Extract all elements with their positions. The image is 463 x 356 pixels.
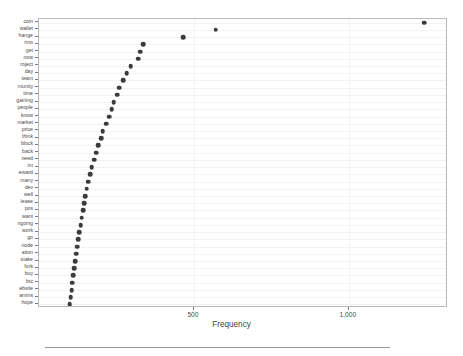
y-axis-tick-label: want: [22, 214, 33, 219]
gridline-horizontal: [39, 117, 446, 118]
x-axis-tick-label: 500: [187, 311, 198, 318]
gridline-vertical: [194, 19, 195, 306]
x-axis-tick-label: 1,000: [340, 311, 357, 318]
y-axis-tick-label: work: [22, 229, 33, 234]
gridline-horizontal: [39, 239, 446, 240]
y-axis-tick-label: im: [28, 164, 33, 169]
gridline-horizontal: [39, 261, 446, 262]
data-point: [74, 252, 79, 257]
data-point: [68, 295, 73, 300]
data-point: [72, 266, 77, 271]
y-axis-tick-label: stake: [21, 257, 33, 262]
gridline-horizontal: [39, 23, 446, 24]
y-axis-tick-label: pos: [25, 207, 33, 212]
gridline-horizontal: [39, 283, 446, 284]
data-point: [81, 208, 86, 213]
data-point: [70, 280, 75, 285]
plot-panel: [38, 18, 447, 307]
y-axis-tick-label: ngoing: [17, 221, 33, 226]
gridline-horizontal: [39, 95, 446, 96]
gridline-horizontal: [39, 203, 446, 204]
y-axis-tick-label: fork: [24, 265, 33, 270]
gridline-horizontal: [39, 254, 446, 255]
gridline-horizontal: [39, 196, 446, 197]
gridline-horizontal: [39, 80, 446, 81]
y-axis-tick-label: well: [24, 192, 33, 197]
data-point: [111, 100, 116, 105]
gridline-horizontal: [39, 218, 446, 219]
y-axis-tick-label: roject: [20, 62, 33, 67]
data-point: [181, 35, 186, 40]
y-axis-tick-label: btc: [26, 279, 33, 284]
gridline-vertical: [349, 19, 350, 306]
gridline-horizontal: [39, 124, 446, 125]
y-axis-tick-label: gaining: [16, 98, 33, 103]
data-point: [73, 259, 78, 264]
gridline-horizontal: [39, 268, 446, 269]
data-point: [121, 78, 126, 83]
data-point: [77, 230, 82, 235]
x-axis-title: Frequency: [0, 320, 463, 329]
gridline-horizontal: [39, 189, 446, 190]
y-axis-tick-label: munity: [18, 84, 33, 89]
data-point: [94, 150, 99, 155]
y-axis-tick-label: people: [17, 106, 33, 111]
y-axis-tick-label: need: [21, 156, 33, 161]
chart-figure: coinwallethangerinogetnowrojectdayteammu…: [0, 0, 463, 356]
y-axis-tick-label: think: [22, 135, 33, 140]
gridline-horizontal: [39, 102, 446, 103]
data-point: [110, 107, 115, 112]
data-point: [69, 288, 74, 293]
gridline-horizontal: [39, 247, 446, 248]
y-axis-tick-label: dev: [25, 185, 33, 190]
y-axis-tick-label: coin: [23, 19, 33, 24]
data-point: [422, 20, 427, 25]
gridline-horizontal: [39, 304, 446, 305]
gridline-horizontal: [39, 44, 446, 45]
y-axis-tick-label: price: [22, 127, 33, 132]
y-axis-tick-label: day: [25, 70, 33, 75]
y-axis-tick-label: ation: [22, 250, 33, 255]
gridline-horizontal: [39, 88, 446, 89]
plot-area-wrapper: coinwallethangerinogetnowrojectdayteammu…: [0, 0, 463, 330]
gridline-horizontal: [39, 174, 446, 175]
y-axis-tick-label: lease: [21, 200, 33, 205]
data-point: [136, 56, 141, 61]
y-axis-tick-label: get: [26, 48, 33, 53]
y-axis-tick-label: hange: [19, 33, 33, 38]
data-point: [117, 85, 122, 90]
gridline-horizontal: [39, 290, 446, 291]
y-axis-tick-label: market: [17, 120, 33, 125]
y-axis-tick-label: eward: [19, 171, 33, 176]
y-axis-tick-label: hope: [21, 301, 33, 306]
data-point: [104, 121, 109, 126]
data-point: [115, 93, 120, 98]
y-axis-tick-label: block: [21, 142, 33, 147]
data-point: [92, 158, 97, 163]
data-point: [213, 28, 218, 33]
data-point: [76, 237, 81, 242]
data-point: [67, 302, 72, 307]
data-point: [107, 114, 112, 119]
gridline-horizontal: [39, 73, 446, 74]
data-point: [75, 244, 80, 249]
y-axis-tick-label: wallet: [20, 26, 33, 31]
data-point: [89, 165, 94, 170]
y-axis-tick-label: go: [27, 236, 33, 241]
y-axis-tick-label: team: [21, 77, 33, 82]
gridline-horizontal: [39, 297, 446, 298]
y-axis-tick-label: back: [22, 149, 33, 154]
y-axis-tick-label: now: [23, 55, 33, 60]
gridline-horizontal: [39, 160, 446, 161]
gridline-horizontal: [39, 37, 446, 38]
gridline-horizontal: [39, 182, 446, 183]
y-axis-tick-labels: coinwallethangerinogetnowrojectdayteammu…: [0, 0, 38, 330]
data-point: [71, 273, 76, 278]
data-point: [141, 42, 146, 47]
data-point: [83, 194, 88, 199]
gridline-horizontal: [39, 59, 446, 60]
data-point: [86, 179, 91, 184]
data-point: [99, 136, 104, 141]
gridline-horizontal: [39, 109, 446, 110]
data-point: [82, 201, 87, 206]
